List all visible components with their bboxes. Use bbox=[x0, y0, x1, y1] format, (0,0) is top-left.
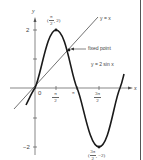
origin-label: 0 bbox=[38, 90, 41, 96]
min-point-label: ( 3π 2 , −2) bbox=[88, 149, 105, 160]
fixed-point-label: fixed point bbox=[88, 46, 111, 51]
max-point-label: ( π 2 , 2) bbox=[47, 14, 60, 26]
max-point-dot bbox=[55, 29, 58, 32]
figure-border bbox=[140, 0, 141, 160]
x-tick-pi-over-2: π 2 bbox=[52, 91, 59, 103]
y-axis-label: y bbox=[32, 8, 35, 14]
fixed-point-diagram: y x 0 2 −2 π 2 π 3π 2 y = x y = 2 sin x … bbox=[0, 0, 143, 160]
identity-line-label: y = x bbox=[100, 16, 111, 21]
x-axis-arrow-icon bbox=[128, 87, 133, 90]
x-tick-pi: π bbox=[72, 90, 75, 95]
y-tick-neg2: −2 bbox=[23, 144, 30, 150]
x-tick-3pi-over-2: 3π 2 bbox=[94, 91, 101, 103]
x-axis-label: x bbox=[134, 85, 137, 91]
y-tick-2: 2 bbox=[26, 27, 29, 33]
y-axis-arrow-icon bbox=[34, 17, 37, 22]
arrow-head-icon bbox=[70, 48, 74, 51]
axes bbox=[10, 17, 133, 155]
plot-canvas bbox=[0, 0, 143, 160]
sine-curve-label: y = 2 sin x bbox=[91, 62, 114, 67]
min-point-dot bbox=[98, 146, 101, 149]
fixed-point-dot bbox=[68, 49, 71, 52]
